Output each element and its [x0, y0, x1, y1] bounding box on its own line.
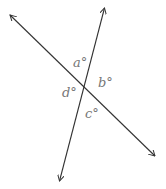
angle-label-b: b°: [98, 76, 113, 89]
line-1: [10, 15, 155, 156]
angle-label-d: d°: [62, 86, 77, 99]
angle-label-a: a°: [73, 56, 87, 69]
angle-label-c: c°: [85, 107, 99, 120]
intersecting-lines-diagram: [0, 0, 166, 189]
